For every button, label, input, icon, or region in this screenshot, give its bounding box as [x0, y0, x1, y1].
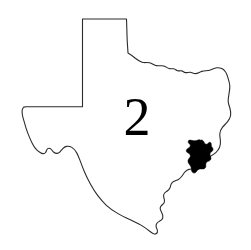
map-figure: 2: [0, 0, 251, 250]
district-number-label: 2: [124, 87, 151, 147]
texas-map-svg: 2: [0, 0, 251, 250]
